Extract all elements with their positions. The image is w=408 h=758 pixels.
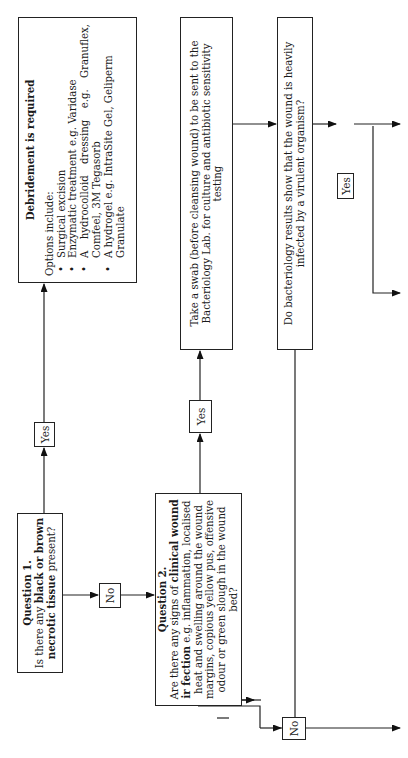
option-item: Surgical excision — [56, 24, 68, 266]
debridement-options-list: Surgical excision Enzymatic treatment e.… — [56, 24, 127, 276]
yes-label-1: Yes — [34, 422, 55, 447]
no-label-2: No — [282, 717, 306, 740]
debridement-title: Debridement is required — [25, 24, 37, 276]
yes-label-2: Yes — [189, 400, 212, 433]
no-label-1: No — [99, 583, 121, 608]
flowchart-canvas: Question 1. Is there any black or brown … — [0, 0, 408, 758]
options-intro: Options include: — [44, 24, 56, 276]
question-1-text: Is there any black or brown necrotic tis… — [34, 514, 58, 672]
question-2-text: Are there any signs of clinical wound ir… — [169, 499, 240, 700]
question-1-box: Question 1. Is there any black or brown … — [17, 513, 63, 673]
option-item: A hydrocolloid dressing e.g. Granuflex, … — [79, 24, 103, 266]
debridement-box: Debridement is required Options include:… — [18, 17, 137, 283]
yes-label-3: Yes — [337, 173, 354, 199]
question-2-box: Question 2. Are there any signs of clini… — [155, 493, 242, 706]
swab-box: Take a swab (before cleansing wound) to … — [180, 17, 233, 350]
bacteriology-question-box: Do bacteriology results show that the wo… — [277, 17, 313, 350]
option-item: Enzymatic treatment e.g. Varidase — [67, 24, 79, 266]
option-item: A hydrogel e.g. IntraSite Gel, Geliperm … — [103, 24, 127, 266]
